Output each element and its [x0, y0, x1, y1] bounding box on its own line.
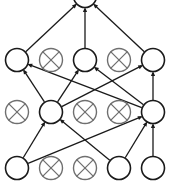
- circle-icon: [74, 0, 97, 8]
- edges-layer: [23, 4, 155, 164]
- node-r3c1-open[interactable]: [6, 157, 29, 180]
- node-r3c3-crossed[interactable]: [74, 157, 97, 180]
- edge-r3c4-to-r2c5: [125, 121, 147, 157]
- circle-icon: [6, 49, 29, 72]
- edge-r1c5-to-r0c3: [93, 4, 144, 52]
- node-r1c4-crossed[interactable]: [108, 49, 131, 72]
- node-r3c5-open[interactable]: [142, 157, 165, 180]
- node-r2c2-open[interactable]: [40, 101, 63, 124]
- node-r2c3-crossed[interactable]: [74, 101, 97, 124]
- node-r2c4-crossed[interactable]: [108, 101, 131, 124]
- circle-icon: [142, 49, 165, 72]
- edge-r2c5-to-r1c5: [151, 71, 155, 100]
- circle-icon: [142, 101, 165, 124]
- node-r1c1-open[interactable]: [6, 49, 29, 72]
- edge-r2c2-to-r1c1: [23, 69, 44, 102]
- edge-r3c5-to-r2c5: [151, 123, 155, 156]
- edge-r2c2-to-r1c3: [58, 69, 79, 102]
- node-r1c2-crossed[interactable]: [40, 49, 63, 72]
- circle-icon: [40, 101, 63, 124]
- node-r3c2-crossed[interactable]: [40, 157, 63, 180]
- node-r1c3-open[interactable]: [74, 49, 97, 72]
- node-r0c3-open[interactable]: [74, 0, 97, 8]
- edge-r1c1-to-r0c3: [26, 4, 77, 52]
- edge-r3c1-to-r2c2: [23, 121, 45, 157]
- node-r2c5-open[interactable]: [142, 101, 165, 124]
- circle-icon: [6, 157, 29, 180]
- edge-r2c2-to-r1c5: [62, 65, 144, 107]
- graph-diagram: [0, 0, 170, 181]
- circle-icon: [108, 157, 131, 180]
- node-r2c1-crossed[interactable]: [6, 101, 29, 124]
- node-r3c4-open[interactable]: [108, 157, 131, 180]
- graph-canvas: [0, 0, 170, 181]
- circle-icon: [142, 157, 165, 180]
- node-r1c5-open[interactable]: [142, 49, 165, 72]
- edge-r1c3-to-r0c3: [83, 7, 87, 48]
- circle-icon: [74, 49, 97, 72]
